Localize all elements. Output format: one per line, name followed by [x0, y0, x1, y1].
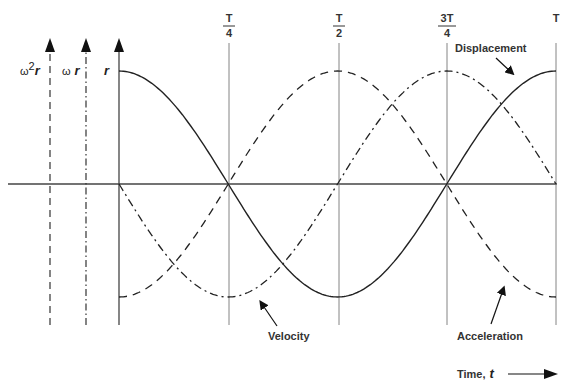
- tick-label-half: T 2: [333, 12, 345, 39]
- tick-label-three-quarter: 3T 4: [438, 12, 456, 39]
- shm-diagram: ω2r ωr r T 4 T 2 3T 4 T Displacement Vel…: [0, 0, 567, 383]
- time-axis-label: Time,t: [457, 366, 495, 381]
- arrow-right-icon: [544, 369, 558, 379]
- acceleration-axis-label: ω2r: [20, 60, 41, 78]
- svg-text:2: 2: [336, 27, 342, 39]
- svg-text:4: 4: [226, 27, 233, 39]
- arrow-icon: [491, 290, 503, 324]
- velocity-axis-label: ωr: [62, 63, 81, 78]
- arrow-up-icon: [45, 38, 55, 52]
- svg-text:T: T: [336, 12, 343, 24]
- arrow-up-icon: [114, 38, 124, 52]
- displacement-axis-label: r: [104, 63, 110, 78]
- arrow-icon: [262, 304, 277, 326]
- arrow-up-icon: [81, 38, 91, 52]
- tick-label-quarter: T 4: [223, 12, 235, 39]
- svg-text:T: T: [226, 12, 233, 24]
- arrow-icon: [496, 58, 511, 72]
- velocity-label: Velocity: [268, 330, 310, 342]
- tick-label-full: T: [553, 12, 560, 24]
- acceleration-label: Acceleration: [457, 330, 523, 342]
- svg-text:3T: 3T: [441, 12, 454, 24]
- svg-text:4: 4: [444, 27, 451, 39]
- displacement-label: Displacement: [455, 42, 527, 54]
